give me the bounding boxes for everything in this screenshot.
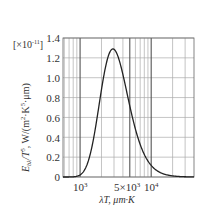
y-axis-label: Ebλ/T5, W/(m2·K5·μm): [19, 83, 32, 173]
grid: [63, 38, 194, 177]
x-tick-labels: 103 5×103 104: [73, 181, 159, 193]
y-tick-labels: 0 0.2 0.4 0.6 0.8 1.0 1.2 1.4: [46, 32, 60, 183]
y-tick-1.4: 1.4: [46, 32, 60, 44]
x-tick-1e4: 104: [144, 181, 159, 193]
x-axis-label: λT, μm·K: [98, 194, 136, 205]
y-tick-0.2: 0.2: [46, 151, 60, 163]
y-tick-0.4: 0.4: [46, 132, 60, 144]
y-tick-0.8: 0.8: [46, 92, 60, 104]
y-multiplier: [×10-11]: [13, 39, 43, 50]
planck-chart: 0 0.2 0.4 0.6 0.8 1.0 1.2 1.4 [×10-11] E…: [0, 0, 209, 205]
x-tick-5e3: 5×103: [114, 181, 141, 193]
y-tick-1.2: 1.2: [46, 52, 60, 64]
plot-frame: [63, 38, 194, 177]
planck-curve: [63, 49, 194, 177]
y-tick-0: 0: [55, 171, 61, 183]
y-tick-0.6: 0.6: [46, 112, 60, 124]
x-tick-1e3: 103: [73, 181, 88, 193]
y-tick-1.0: 1.0: [46, 72, 60, 84]
